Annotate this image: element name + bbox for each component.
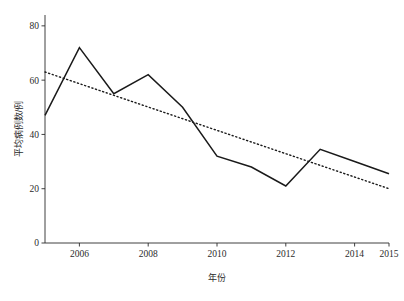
series-line-cases	[45, 48, 389, 186]
x-tick-label: 2012	[276, 249, 295, 259]
line-chart: 020406080200620082010201220142015年份平均病例数…	[0, 0, 404, 301]
y-tick-label: 0	[34, 238, 39, 248]
y-tick-label: 20	[30, 184, 40, 194]
x-tick-label: 2015	[380, 249, 399, 259]
x-tick-label: 2014	[345, 249, 364, 259]
trend-line	[45, 72, 389, 189]
chart-container: 020406080200620082010201220142015年份平均病例数…	[0, 0, 404, 301]
y-tick-label: 80	[30, 21, 40, 31]
y-axis-title: 平均病例数/例	[13, 101, 24, 158]
x-axis-title: 年份	[208, 272, 226, 283]
x-tick-label: 2008	[139, 249, 158, 259]
x-tick-label: 2006	[70, 249, 89, 259]
x-tick-label: 2010	[208, 249, 227, 259]
y-tick-label: 60	[30, 76, 40, 86]
y-tick-label: 40	[30, 130, 40, 140]
